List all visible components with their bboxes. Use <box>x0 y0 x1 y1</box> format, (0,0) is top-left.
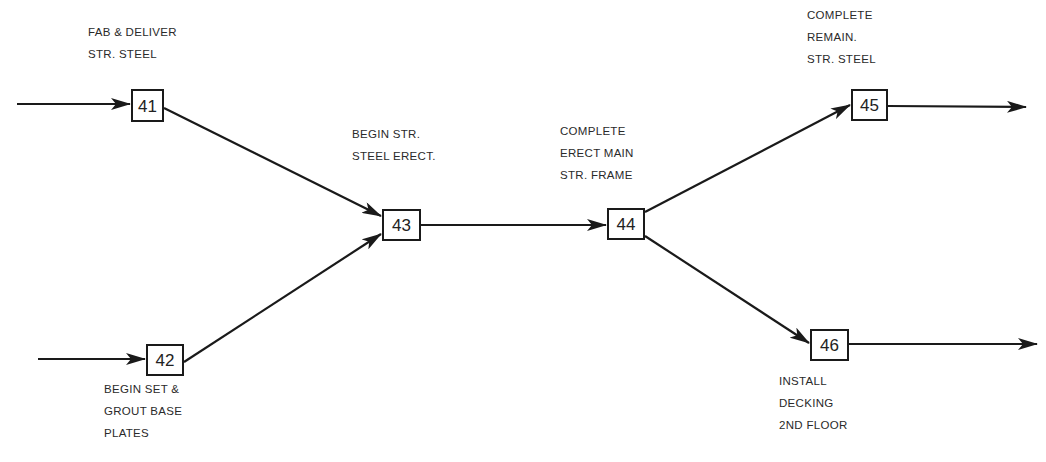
label-line: DECKING <box>779 392 848 414</box>
node-45-number: 45 <box>860 96 879 115</box>
label-line: PLATES <box>104 422 182 444</box>
label-line: REMAIN. <box>807 26 876 48</box>
node-46: 46 <box>811 330 848 360</box>
node-44-number: 44 <box>617 215 636 234</box>
node-41-label: FAB & DELIVER STR. STEEL <box>88 21 177 65</box>
node-46-label: INSTALL DECKING 2ND FLOOR <box>779 370 848 436</box>
node-43: 43 <box>383 210 420 240</box>
edge-44-46 <box>645 236 809 343</box>
node-45-label: COMPLETE REMAIN. STR. STEEL <box>807 4 876 70</box>
edge-44-45 <box>645 105 850 212</box>
label-line: BEGIN STR. <box>352 123 436 145</box>
label-line: FAB & DELIVER <box>88 21 177 43</box>
edge-41-43 <box>164 108 381 216</box>
label-line: BEGIN SET & <box>104 378 182 400</box>
label-line: STEEL ERECT. <box>352 145 436 167</box>
label-line: STR. STEEL <box>88 43 177 65</box>
label-line: COMPLETE <box>560 120 634 142</box>
node-42-label: BEGIN SET & GROUT BASE PLATES <box>104 378 182 444</box>
label-line: 2ND FLOOR <box>779 414 848 436</box>
label-line: COMPLETE <box>807 4 876 26</box>
label-line: STR. STEEL <box>807 48 876 70</box>
edge-45-out <box>888 106 1026 107</box>
node-41: 41 <box>132 90 163 121</box>
node-41-number: 41 <box>138 97 157 116</box>
label-line: STR. FRAME <box>560 164 634 186</box>
node-44-label: COMPLETE ERECT MAIN STR. FRAME <box>560 120 634 186</box>
node-42: 42 <box>147 345 183 375</box>
edge-42-43 <box>184 234 381 362</box>
node-42-number: 42 <box>156 351 175 370</box>
node-46-number: 46 <box>820 336 839 355</box>
node-43-number: 43 <box>392 216 411 235</box>
node-44: 44 <box>608 209 644 239</box>
label-line: GROUT BASE <box>104 400 182 422</box>
label-line: INSTALL <box>779 370 848 392</box>
node-45: 45 <box>852 90 887 120</box>
node-43-label: BEGIN STR. STEEL ERECT. <box>352 123 436 167</box>
label-line: ERECT MAIN <box>560 142 634 164</box>
